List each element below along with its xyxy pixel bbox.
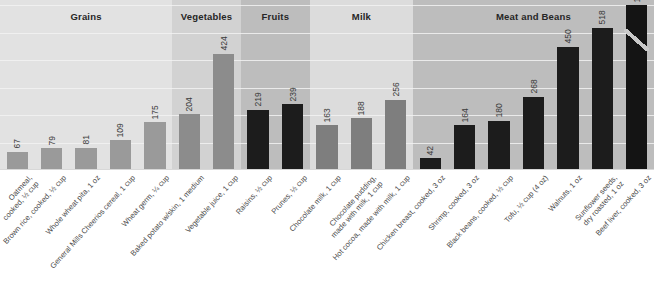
bar-slot: 518 [592, 28, 613, 170]
bar-slot: 109 [110, 140, 131, 170]
bar-value-label: 79 [48, 136, 57, 145]
bar-value-label: 188 [357, 101, 366, 115]
bar [144, 122, 165, 170]
bar-slot: 180 [488, 121, 509, 170]
bar-value-label: 164 [461, 108, 470, 122]
bar-value-label: 12,400 [633, 0, 642, 2]
bar-value-label: 204 [185, 97, 194, 111]
bar [592, 28, 613, 170]
x-axis-label: Raisins, ½ cup [235, 174, 275, 217]
bar-slot: 175 [144, 122, 165, 170]
bar-value-label: 67 [13, 139, 22, 148]
bar-slot: 268 [523, 97, 544, 170]
bar [7, 152, 28, 170]
bar-slot: 188 [351, 118, 372, 170]
bar-slot: 256 [385, 100, 406, 170]
x-axis-label-line: Walnuts, 1 oz [547, 173, 584, 213]
bar-value-label: 175 [151, 105, 160, 119]
bar-value-label: 450 [564, 29, 573, 43]
bar-value-label: 256 [392, 83, 401, 97]
bar [351, 118, 372, 170]
bar-value-label: 268 [530, 79, 539, 93]
bar-value-label: 109 [116, 123, 125, 137]
bar-slot: 12,400 [626, 5, 647, 170]
bar-chart: GrainsVegetablesFruitsMilkMeat and Beans… [0, 0, 654, 299]
bar-slot: 219 [247, 110, 268, 170]
bar [247, 110, 268, 170]
bar-value-label: 219 [254, 93, 263, 107]
bar-slot: 164 [454, 125, 475, 170]
bar-slot: 239 [282, 104, 303, 170]
bar-value-label: 42 [426, 146, 435, 155]
bar [41, 148, 62, 170]
bar [557, 47, 578, 170]
bar-slot: 424 [213, 54, 234, 170]
x-axis-label-line: Black beans, cooked, ½ cup [445, 173, 515, 250]
x-axis-label-line: Chicken breast, cooked, 3 oz [374, 173, 446, 252]
bar [213, 54, 234, 170]
x-axis-label: Chicken breast, cooked, 3 oz [375, 174, 447, 253]
x-axis-labels: Oatmeal,cooked, ½ cupBrown rice, cooked,… [0, 170, 654, 299]
bar [626, 5, 647, 170]
bar [282, 104, 303, 170]
bar [110, 140, 131, 170]
bar-series: 6779811091752044242192391631882564216418… [0, 0, 654, 170]
bar [316, 125, 337, 170]
plot-area: GrainsVegetablesFruitsMilkMeat and Beans… [0, 0, 654, 170]
bar [385, 100, 406, 170]
bar-slot: 79 [41, 148, 62, 170]
bar-slot: 67 [7, 152, 28, 170]
x-axis-label: Black beans, cooked, ½ cup [446, 174, 516, 250]
bar-slot: 163 [316, 125, 337, 170]
bar-value-label: 81 [82, 135, 91, 144]
x-axis-label: Walnuts, 1 oz [548, 174, 585, 214]
bar [523, 97, 544, 170]
bar-value-label: 518 [598, 11, 607, 25]
bar [75, 148, 96, 170]
bar-value-label: 163 [323, 108, 332, 122]
bar-value-label: 424 [220, 37, 229, 51]
bar-slot: 81 [75, 148, 96, 170]
bar-value-label: 180 [495, 103, 504, 117]
bar-slot: 204 [179, 114, 200, 170]
bar-value-label: 239 [289, 87, 298, 101]
bar [179, 114, 200, 170]
bar-slot: 450 [557, 47, 578, 170]
bar [488, 121, 509, 170]
x-axis-label-line: Raisins, ½ cup [234, 173, 274, 216]
bar [454, 125, 475, 170]
